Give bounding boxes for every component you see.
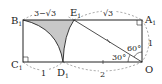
right-angle-a1: [137, 20, 142, 25]
angle-60-label: 60°: [127, 44, 141, 53]
label-d1: D1: [57, 67, 69, 79]
label-o: O: [145, 64, 153, 75]
length-c1d1: 1: [41, 69, 46, 78]
length-e1a1: √3: [103, 9, 113, 18]
angle-arc-30: [128, 55, 130, 62]
right-angle-c1: [23, 57, 28, 62]
label-c1: C1: [11, 59, 22, 71]
length-b1e1: 3−√3: [34, 9, 56, 18]
label-b1: B1: [11, 15, 22, 27]
shaded-region: [23, 20, 74, 62]
geometry-diagram: B1 E1 A1 C1 D1 O 3−√3 √3 1 1 2 60° 30°: [0, 0, 162, 84]
angle-30-label: 30°: [112, 53, 126, 62]
length-a1o: 1: [148, 39, 153, 48]
segment-e1-o: [74, 20, 142, 62]
length-d1o: 2: [100, 70, 105, 79]
label-a1: A1: [144, 14, 156, 26]
label-e1: E1: [70, 7, 81, 19]
